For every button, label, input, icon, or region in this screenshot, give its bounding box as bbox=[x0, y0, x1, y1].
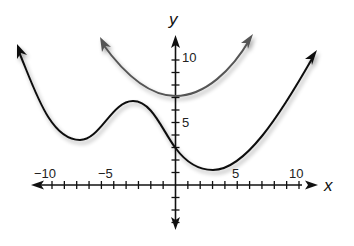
x-axis-label: x bbox=[323, 176, 333, 195]
x-axis-right-arrow-icon bbox=[305, 181, 318, 190]
function-graph: −10 −5 5 10 5 10 x y bbox=[0, 0, 354, 246]
y-axis-label: y bbox=[168, 10, 179, 29]
x-tick-label-10: 10 bbox=[289, 166, 303, 181]
black-curve-right-arrow-icon bbox=[305, 50, 317, 65]
y-tick-label-5: 5 bbox=[182, 115, 189, 130]
y-axis bbox=[171, 35, 180, 230]
gray-curve-left-arrow-icon bbox=[100, 37, 111, 52]
x-tick-label-neg5: −5 bbox=[98, 166, 113, 181]
black-curve bbox=[19, 52, 313, 170]
x-tick-label-5: 5 bbox=[232, 166, 239, 181]
x-axis bbox=[31, 181, 318, 190]
x-tick-label-neg10: −10 bbox=[34, 166, 56, 181]
gray-curve-right-arrow-icon bbox=[241, 34, 253, 49]
y-tick-label-10: 10 bbox=[182, 50, 196, 65]
